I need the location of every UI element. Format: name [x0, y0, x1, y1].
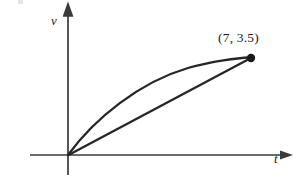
velocity-time-figure: v t (7, 3.5)	[0, 0, 301, 180]
chord-line	[69, 59, 251, 156]
endpoint-dot	[247, 54, 255, 62]
y-axis-label: v	[51, 14, 57, 27]
x-axis-label: t	[274, 152, 278, 165]
plot-canvas	[0, 0, 301, 180]
endpoint-label: (7, 3.5)	[218, 31, 259, 45]
